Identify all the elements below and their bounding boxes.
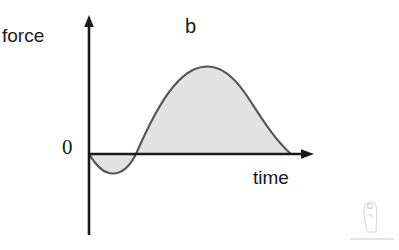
up-arrow-icon: [84, 15, 94, 27]
curve-fill-area-positive: [136, 67, 291, 155]
y-axis-title: force: [2, 26, 44, 45]
x-axis-title: time: [253, 168, 289, 187]
curve-label: b: [185, 16, 196, 36]
figure-watermark-icon: [348, 196, 399, 246]
figure-canvas: force time b 0: [0, 0, 399, 250]
force-time-plot: [0, 0, 399, 250]
origin-tick-label: 0: [62, 137, 73, 158]
right-arrow-icon: [301, 149, 314, 159]
